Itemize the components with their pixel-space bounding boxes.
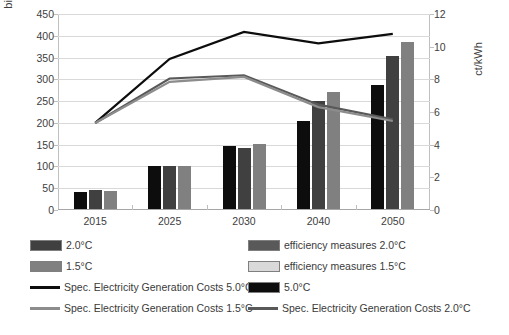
y-axis-left-tick-label: 300 <box>18 73 54 85</box>
y-axis-left-tick-label: 50 <box>18 182 54 194</box>
legend-item[interactable]: 2.0°C <box>30 236 253 254</box>
plot-area: 050100150200250300350400450 024681012 20… <box>58 14 430 210</box>
y-axis-right-tick-label: 8 <box>434 73 462 85</box>
legend-item[interactable]: Spec. Electricity Generation Costs 5.0°C <box>30 278 253 296</box>
x-axis-tick-label: 2025 <box>158 215 181 227</box>
legend-column-left: 2.0°C1.5°CSpec. Electricity Generation C… <box>30 236 253 320</box>
legend-label: efficiency measures 1.5°C <box>284 260 406 272</box>
x-axis-tick-label: 2050 <box>381 215 404 227</box>
legend-line-swatch-icon <box>248 307 278 310</box>
line-series-layer <box>58 14 430 210</box>
y-axis-left-tick-label: 250 <box>18 95 54 107</box>
chart-container: billion $ ct/kWh 05010015020025030035040… <box>0 0 509 232</box>
legend-item[interactable]: 5.0°C <box>248 278 471 296</box>
legend-bar-swatch-icon <box>30 261 62 272</box>
x-axis-tick-label: 2030 <box>232 215 255 227</box>
x-axis-tick-label: 2040 <box>307 215 330 227</box>
legend-line-swatch-icon <box>30 307 60 310</box>
legend-bar-swatch-icon <box>248 240 280 251</box>
y-axis-right-tickmark <box>430 14 434 15</box>
y-axis-right-tickmark <box>430 145 434 146</box>
chart-legend: 2.0°C1.5°CSpec. Electricity Generation C… <box>0 236 509 335</box>
legend-item[interactable]: Spec. Electricity Generation Costs 1.5°C <box>30 299 253 317</box>
y-axis-right-tickmark <box>430 112 434 113</box>
y-axis-left-tick-label: 200 <box>18 117 54 129</box>
y-axis-left-tick-label: 150 <box>18 139 54 151</box>
y-axis-left-tick-label: 400 <box>18 30 54 42</box>
legend-label: Spec. Electricity Generation Costs 5.0°C <box>64 281 253 293</box>
legend-label: efficiency measures 2.0°C <box>284 239 406 251</box>
legend-label: Spec. Electricity Generation Costs 2.0°C <box>282 302 471 314</box>
x-axis-separator <box>132 205 133 210</box>
legend-item[interactable]: Spec. Electricity Generation Costs 2.0°C <box>248 299 471 317</box>
legend-bar-swatch-icon <box>248 261 280 272</box>
y-axis-right-tickmark <box>430 210 434 211</box>
x-axis-tick-label: 2015 <box>84 215 107 227</box>
y-axis-right-tick-label: 2 <box>434 171 462 183</box>
y-axis-left-title: billion $ <box>2 0 14 50</box>
y-axis-left-tick-label: 100 <box>18 160 54 172</box>
y-axis-right-title: ct/kWh <box>472 14 484 104</box>
x-axis-separator <box>356 205 357 210</box>
y-axis-right-tick-label: 6 <box>434 106 462 118</box>
y-axis-left-tick-label: 350 <box>18 52 54 64</box>
legend-bar-swatch-icon <box>248 282 280 293</box>
y-axis-right-tickmark <box>430 47 434 48</box>
legend-label: 5.0°C <box>284 281 310 293</box>
legend-item[interactable]: efficiency measures 1.5°C <box>248 257 471 275</box>
y-axis-right-tick-label: 0 <box>434 204 462 216</box>
y-axis-left-tick-label: 450 <box>18 8 54 20</box>
x-axis-separator <box>281 205 282 210</box>
legend-label: 1.5°C <box>66 260 92 272</box>
y-axis-right-tick-label: 10 <box>434 41 462 53</box>
y-axis-left-tickmark <box>54 210 58 211</box>
legend-bar-swatch-icon <box>30 240 62 251</box>
y-axis-right-tickmark <box>430 79 434 80</box>
y-axis-right-tick-label: 12 <box>434 8 462 20</box>
x-axis-separator <box>207 205 208 210</box>
y-axis-left-tick-label: 0 <box>18 204 54 216</box>
legend-column-right: efficiency measures 2.0°Cefficiency meas… <box>248 236 471 320</box>
legend-label: Spec. Electricity Generation Costs 1.5°C <box>64 302 253 314</box>
legend-line-swatch-icon <box>30 286 60 289</box>
legend-item[interactable]: 1.5°C <box>30 257 253 275</box>
legend-label: 2.0°C <box>66 239 92 251</box>
y-axis-right-tick-label: 4 <box>434 139 462 151</box>
legend-item[interactable]: efficiency measures 2.0°C <box>248 236 471 254</box>
y-axis-right-tickmark <box>430 177 434 178</box>
